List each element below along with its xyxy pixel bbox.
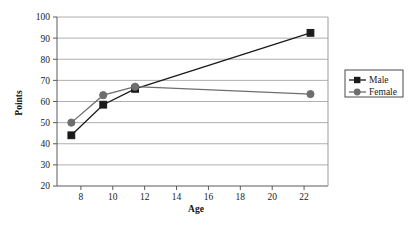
y-tick-label: 30 bbox=[41, 160, 51, 170]
y-tick-label: 100 bbox=[36, 12, 51, 22]
data-point-female bbox=[307, 91, 314, 98]
data-point-female bbox=[68, 119, 75, 126]
data-point-female bbox=[132, 83, 139, 90]
x-tick-label: 14 bbox=[172, 192, 182, 202]
y-tick-label: 20 bbox=[41, 181, 51, 191]
x-tick-label: 8 bbox=[79, 192, 84, 202]
y-tick-label: 40 bbox=[41, 139, 51, 149]
y-tick-label: 80 bbox=[41, 55, 51, 65]
data-point-male bbox=[100, 101, 107, 108]
x-tick-label: 12 bbox=[140, 192, 150, 202]
line-chart: 2030405060708090100 810121416182022 Poin… bbox=[0, 0, 410, 229]
x-axis-title: Age bbox=[188, 204, 204, 214]
data-point-male bbox=[68, 132, 75, 139]
x-tick-label: 22 bbox=[299, 192, 309, 202]
data-point-female bbox=[100, 92, 107, 99]
y-tick-label: 70 bbox=[41, 76, 51, 86]
chart-figure: 2030405060708090100 810121416182022 Poin… bbox=[0, 0, 410, 229]
legend-label-male: Male bbox=[369, 75, 389, 85]
y-axis-title: Points bbox=[14, 90, 24, 116]
y-tick-label: 90 bbox=[41, 34, 51, 44]
x-tick-label: 20 bbox=[267, 192, 277, 202]
x-tick-label: 18 bbox=[236, 192, 246, 202]
legend: MaleFemale bbox=[345, 70, 403, 97]
y-tick-label: 60 bbox=[41, 97, 51, 107]
square-marker-icon bbox=[354, 77, 360, 83]
y-tick-label: 50 bbox=[41, 118, 51, 128]
legend-label-female: Female bbox=[369, 87, 397, 97]
x-tick-label: 16 bbox=[204, 192, 214, 202]
data-point-male bbox=[307, 29, 314, 36]
x-tick-label: 10 bbox=[108, 192, 118, 202]
circle-marker-icon bbox=[354, 89, 361, 96]
